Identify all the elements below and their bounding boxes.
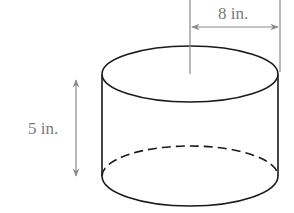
- bottom-front-edge: [102, 176, 278, 206]
- bottom-back-edge-dashed: [102, 146, 278, 176]
- height-dimension: 5 in.: [28, 80, 76, 176]
- radius-label: 8 in.: [218, 4, 248, 23]
- radius-dimension: 8 in.: [190, 0, 280, 74]
- cylinder-diagram: 8 in. 5 in.: [0, 0, 294, 213]
- height-label: 5 in.: [28, 119, 58, 138]
